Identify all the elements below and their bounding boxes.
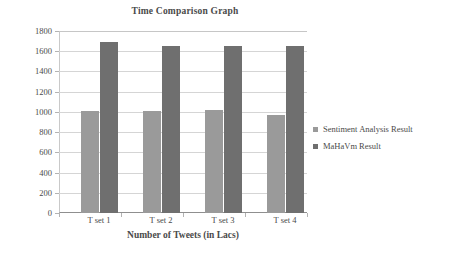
x-tick-label: T set 2 bbox=[131, 215, 191, 225]
y-tick-mark bbox=[55, 152, 59, 153]
bar-sentiment-analysis-result bbox=[205, 110, 223, 213]
time-comparison-bar-chart: Time Comparison Graph 180016001400120010… bbox=[0, 0, 456, 258]
x-tick-label: T set 1 bbox=[69, 215, 129, 225]
chart-title: Time Comparison Graph bbox=[60, 6, 310, 16]
y-tick-mark bbox=[55, 132, 59, 133]
y-tick-label: 1200 bbox=[8, 88, 52, 97]
y-tick-label: 800 bbox=[8, 128, 52, 137]
y-tick-mark bbox=[55, 71, 59, 72]
bar-sentiment-analysis-result bbox=[143, 111, 161, 213]
legend-label: MaHaVm Result bbox=[323, 142, 381, 151]
legend-swatch-icon bbox=[313, 127, 318, 132]
legend-item-mahavm-result[interactable]: MaHaVm Result bbox=[313, 138, 413, 155]
bar-group bbox=[267, 31, 304, 213]
y-tick-label: 0 bbox=[8, 209, 52, 218]
x-tick-mark bbox=[59, 213, 60, 217]
y-tick-mark bbox=[55, 173, 59, 174]
x-axis-title: Number of Tweets (in Lacs) bbox=[59, 230, 307, 240]
legend-item-sentiment-analysis-result[interactable]: Sentiment Analysis Result bbox=[313, 121, 413, 138]
y-tick-mark bbox=[55, 193, 59, 194]
y-tick-label: 1800 bbox=[8, 27, 52, 36]
y-tick-label: 1000 bbox=[8, 108, 52, 117]
y-tick-label: 600 bbox=[8, 148, 52, 157]
y-tick-mark bbox=[55, 31, 59, 32]
plot-area bbox=[59, 31, 307, 213]
bar-group bbox=[143, 31, 180, 213]
bars-layer bbox=[59, 31, 307, 213]
legend-swatch-icon bbox=[313, 144, 318, 149]
chart-legend: Sentiment Analysis ResultMaHaVm Result bbox=[313, 121, 413, 155]
bar-mahavm-result bbox=[162, 46, 180, 213]
bar-sentiment-analysis-result bbox=[81, 111, 99, 213]
bar-sentiment-analysis-result bbox=[267, 115, 285, 213]
x-tick-label: T set 4 bbox=[255, 215, 315, 225]
y-tick-mark bbox=[55, 92, 59, 93]
bar-group bbox=[205, 31, 242, 213]
y-tick-label: 400 bbox=[8, 169, 52, 178]
x-tick-label: T set 3 bbox=[193, 215, 253, 225]
bar-mahavm-result bbox=[286, 46, 304, 213]
bar-group bbox=[81, 31, 118, 213]
y-tick-mark bbox=[55, 51, 59, 52]
bar-mahavm-result bbox=[224, 46, 242, 213]
y-tick-label: 1400 bbox=[8, 67, 52, 76]
y-tick-mark bbox=[55, 112, 59, 113]
y-tick-label: 200 bbox=[8, 189, 52, 198]
bar-mahavm-result bbox=[100, 42, 118, 213]
y-tick-label: 1600 bbox=[8, 47, 52, 56]
legend-label: Sentiment Analysis Result bbox=[323, 125, 413, 134]
